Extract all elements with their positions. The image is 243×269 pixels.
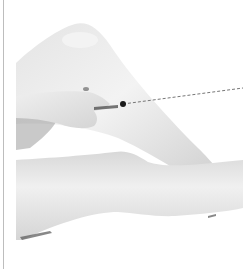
navel-fold [83, 87, 89, 91]
legs-illustration [0, 0, 243, 269]
knee-highlight [62, 32, 98, 48]
toe-shadow [208, 214, 216, 218]
illustration-frame [0, 0, 243, 269]
acupoint-marker [120, 101, 126, 107]
straight-leg [16, 151, 243, 240]
